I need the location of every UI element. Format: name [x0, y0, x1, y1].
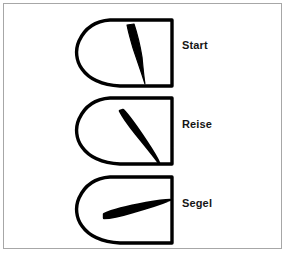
wing-row-reise	[77, 98, 172, 164]
wing-label-reise: Reise	[182, 119, 212, 130]
wing-planform-icon-reise	[77, 98, 172, 164]
figure-root: Start Reise Segel	[0, 0, 288, 255]
wing-label-start: Start	[182, 40, 208, 51]
wing-row-segel	[77, 177, 172, 243]
wing-diagram-svg	[0, 0, 288, 255]
wing-label-segel: Segel	[182, 198, 212, 209]
wing-planform-icon-start	[77, 20, 172, 86]
wing-row-start	[77, 20, 172, 86]
